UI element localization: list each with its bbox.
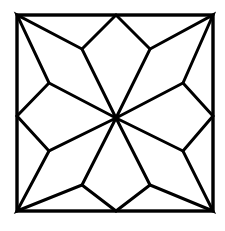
right-midpoint-arms [183,83,213,151]
top-midpoint-arms [82,15,150,49]
bottom-midpoint-arms [82,185,150,211]
star-pattern-diagram [0,0,225,231]
left-midpoint-arms [17,83,49,151]
